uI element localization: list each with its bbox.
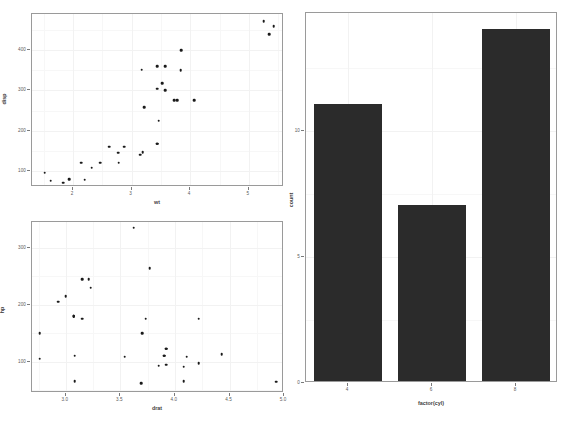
grid-line-horizontal bbox=[32, 305, 282, 306]
x-tick-mark bbox=[431, 383, 432, 386]
grid-line-horizontal-minor bbox=[32, 276, 282, 277]
data-point bbox=[65, 295, 68, 298]
x-tick-label: 4 bbox=[188, 191, 191, 196]
grid-line-vertical-minor bbox=[220, 14, 221, 185]
data-point bbox=[156, 142, 159, 145]
data-point bbox=[164, 65, 167, 68]
x-tick-label: 3 bbox=[129, 191, 132, 196]
grid-line-horizontal bbox=[32, 50, 282, 51]
data-point bbox=[165, 347, 168, 350]
data-point bbox=[163, 355, 166, 358]
x-tick-mark bbox=[248, 187, 249, 190]
data-point bbox=[262, 20, 265, 23]
data-point bbox=[90, 286, 93, 289]
x-tick-label: 6 bbox=[430, 387, 433, 392]
y-tick-mark bbox=[27, 304, 30, 305]
data-point bbox=[157, 364, 160, 367]
data-point bbox=[272, 25, 275, 28]
x-tick-mark bbox=[131, 187, 132, 190]
figure-canvas: 2345100200300400 wt disp 3.03.54.04.55.0… bbox=[0, 0, 570, 421]
x-tick-label: 2 bbox=[71, 191, 74, 196]
data-point bbox=[99, 162, 102, 165]
grid-line-horizontal-minor bbox=[32, 333, 282, 334]
y-tick-label: 300 bbox=[7, 87, 26, 92]
y-tick-label: 100 bbox=[7, 167, 26, 172]
data-point bbox=[68, 178, 71, 181]
data-point bbox=[156, 65, 159, 68]
data-point bbox=[176, 99, 179, 102]
data-point bbox=[268, 33, 271, 36]
grid-line-vertical bbox=[190, 14, 191, 185]
data-point bbox=[72, 315, 75, 318]
grid-line-vertical bbox=[73, 14, 74, 185]
y-tick-label: 200 bbox=[7, 127, 26, 132]
grid-line-horizontal bbox=[32, 131, 282, 132]
data-point bbox=[221, 353, 224, 356]
x-tick-label: 3.5 bbox=[116, 397, 123, 402]
data-point bbox=[49, 179, 52, 182]
x-tick-label: 5 bbox=[246, 191, 249, 196]
panel-count-by-cyl: 0510468 factor(cyl) count bbox=[290, 0, 570, 421]
y-tick-label: 200 bbox=[7, 301, 26, 306]
data-point bbox=[161, 82, 164, 85]
x-tick-label: 8 bbox=[514, 387, 517, 392]
data-point bbox=[140, 382, 143, 385]
x-axis-title-wt: wt bbox=[154, 199, 160, 205]
y-tick-label: 300 bbox=[7, 244, 26, 249]
data-point bbox=[43, 172, 46, 175]
grid-line-vertical bbox=[249, 14, 250, 185]
data-point bbox=[140, 69, 143, 72]
y-tick-mark bbox=[27, 49, 30, 50]
plot-area-disp-vs-wt bbox=[31, 13, 283, 186]
plot-area-hp-vs-drat bbox=[31, 221, 283, 392]
data-point bbox=[143, 106, 146, 109]
x-tick-mark bbox=[72, 187, 73, 190]
y-tick-mark bbox=[27, 247, 30, 248]
data-point bbox=[142, 151, 145, 154]
x-tick-mark bbox=[515, 383, 516, 386]
x-tick-mark bbox=[119, 393, 120, 396]
y-axis-title-count: count bbox=[288, 193, 294, 208]
data-point bbox=[108, 146, 111, 149]
y-tick-mark bbox=[27, 361, 30, 362]
bar bbox=[314, 104, 383, 381]
data-point bbox=[180, 49, 183, 52]
data-point bbox=[193, 99, 196, 102]
data-point bbox=[182, 366, 185, 369]
grid-line-horizontal bbox=[32, 248, 282, 249]
x-tick-mark bbox=[283, 393, 284, 396]
data-point bbox=[91, 166, 94, 169]
x-tick-label: 3.0 bbox=[61, 397, 68, 402]
data-point bbox=[164, 89, 167, 92]
grid-line-vertical-minor bbox=[161, 14, 162, 185]
data-point bbox=[139, 153, 142, 156]
grid-line-vertical-minor bbox=[278, 14, 279, 185]
x-axis-title-drat: drat bbox=[152, 405, 162, 411]
grid-line-horizontal-minor bbox=[32, 151, 282, 152]
data-point bbox=[123, 146, 126, 149]
x-tick-mark bbox=[174, 393, 175, 396]
y-tick-mark bbox=[27, 170, 30, 171]
data-point bbox=[62, 181, 65, 184]
x-tick-mark bbox=[229, 393, 230, 396]
y-tick-label: 0 bbox=[281, 380, 300, 385]
data-point bbox=[198, 362, 201, 365]
x-tick-mark bbox=[189, 187, 190, 190]
panel-hp-vs-drat: 3.03.54.04.55.0100200300 drat hp bbox=[0, 211, 290, 421]
grid-line-vertical-minor bbox=[44, 14, 45, 185]
data-point bbox=[81, 278, 84, 281]
grid-line-vertical bbox=[132, 14, 133, 185]
x-tick-label: 4.0 bbox=[171, 397, 178, 402]
data-point bbox=[57, 301, 60, 304]
data-point bbox=[182, 380, 185, 383]
data-point bbox=[165, 363, 168, 366]
data-point bbox=[198, 318, 201, 321]
x-tick-mark bbox=[65, 393, 66, 396]
y-tick-label: 400 bbox=[7, 47, 26, 52]
grid-line-horizontal bbox=[32, 90, 282, 91]
grid-line-horizontal-minor bbox=[32, 30, 282, 31]
data-point bbox=[87, 278, 90, 281]
x-tick-label: 4 bbox=[346, 387, 349, 392]
grid-line-horizontal bbox=[32, 171, 282, 172]
grid-line-horizontal-minor bbox=[32, 111, 282, 112]
